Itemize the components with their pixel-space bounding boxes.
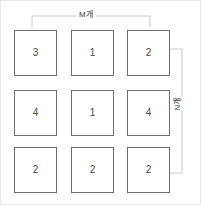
grid-cell-value: 2 <box>33 165 39 175</box>
grid-cell-r3c1: 2 <box>14 147 57 193</box>
grid-cell-r2c2: 1 <box>71 90 114 136</box>
grid-cell-r3c3: 2 <box>127 147 170 193</box>
grid-cell-r2c3: 4 <box>127 90 170 136</box>
grid-cell-r1c3: 2 <box>127 30 170 76</box>
grid-cell-value: 4 <box>33 108 39 118</box>
grid-cell-r1c2: 1 <box>71 30 114 76</box>
grid-cell-value: 2 <box>90 165 96 175</box>
grid-cell-value: 3 <box>33 48 39 58</box>
diagram-canvas: 3 1 2 4 1 4 2 2 2 M개 N개 <box>0 0 201 205</box>
grid-cell-value: 2 <box>146 165 152 175</box>
grid-cell-value: 1 <box>90 108 96 118</box>
grid-cell-value: 1 <box>90 48 96 58</box>
top-bracket-label: M개 <box>76 11 96 19</box>
grid-cell-r3c2: 2 <box>71 147 114 193</box>
grid-cell-r2c1: 4 <box>14 90 57 136</box>
grid-cell-value: 2 <box>146 48 152 58</box>
grid-cell-value: 4 <box>146 108 152 118</box>
grid-cell-r1c1: 3 <box>14 30 57 76</box>
right-bracket-label: N개 <box>171 98 185 111</box>
